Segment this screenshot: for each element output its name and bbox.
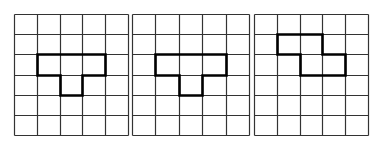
grid-panel-2 [132, 14, 249, 135]
grid-panel-2-svg [132, 14, 249, 135]
grid-lines [133, 15, 250, 136]
grid-lines [15, 15, 129, 136]
grid-panel-3 [254, 14, 368, 135]
grid-panel-1-svg [14, 14, 128, 135]
grid-panel-3-svg [254, 14, 368, 135]
grid-panel-1 [14, 14, 128, 135]
